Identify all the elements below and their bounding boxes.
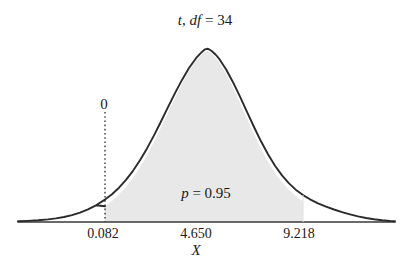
curve-title: t, df = 34 <box>178 13 232 28</box>
p-value: 0.95 <box>205 185 231 201</box>
distribution-plot <box>0 0 410 261</box>
p-symbol: p <box>181 185 189 201</box>
title-equals: = <box>201 12 217 28</box>
title-value: 34 <box>217 12 232 28</box>
x-tick-label-lower: 0.082 <box>87 227 119 241</box>
title-parameter: df <box>190 12 202 28</box>
x-tick-label-center: 4.650 <box>180 227 212 241</box>
x-tick-label-upper: 9.218 <box>283 227 315 241</box>
t-distribution-figure: t, df = 34 0 p = 0.95 0.082 4.650 9.218 … <box>0 0 410 261</box>
p-equals: = <box>189 185 205 201</box>
title-separator: , <box>182 12 190 28</box>
zero-reference-label: 0 <box>100 97 108 112</box>
probability-annotation: p = 0.95 <box>181 186 231 201</box>
x-axis-label: X <box>191 243 200 258</box>
